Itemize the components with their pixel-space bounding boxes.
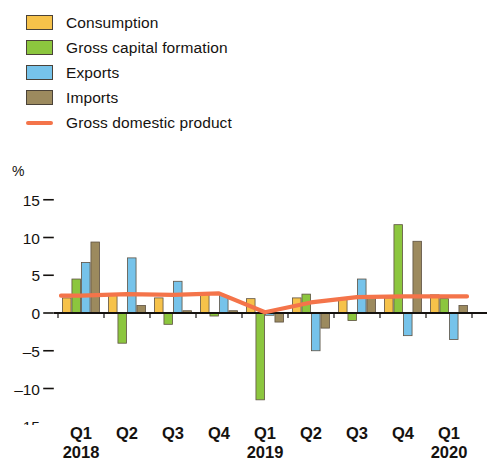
- bar: [256, 313, 265, 400]
- legend-item: Exports: [26, 60, 356, 85]
- chart-plot-area: 151050–5–10–15: [0, 185, 493, 425]
- x-axis-quarter-label: Q1: [426, 424, 472, 443]
- bar: [91, 242, 100, 313]
- x-axis-quarter-label: Q4: [380, 424, 426, 443]
- x-axis-group: Q12020: [426, 424, 472, 462]
- x-axis-group: Q12018: [58, 424, 104, 462]
- bar: [394, 225, 403, 313]
- bar-chart-svg: 151050–5–10–15: [0, 185, 493, 425]
- x-axis-quarter-label: Q4: [196, 424, 242, 443]
- bar: [173, 281, 182, 313]
- x-axis-quarter-label: Q2: [288, 424, 334, 443]
- bar: [154, 298, 163, 313]
- x-axis-group: Q4: [196, 424, 242, 443]
- bar: [108, 296, 117, 313]
- bar: [311, 313, 320, 351]
- x-axis-group: Q2: [288, 424, 334, 443]
- gdp-line: [61, 293, 467, 312]
- chart-legend: ConsumptionGross capital formationExport…: [26, 10, 356, 135]
- square-swatch-icon: [26, 65, 53, 80]
- bar: [275, 313, 284, 322]
- bar: [81, 262, 90, 313]
- y-axis-tick-label: 15: [23, 192, 40, 209]
- bar: [348, 313, 357, 321]
- y-axis-tick-label: 10: [23, 230, 41, 247]
- legend-item-label: Consumption: [66, 14, 158, 32]
- square-swatch-icon: [26, 90, 53, 105]
- x-axis-year-label: 2019: [242, 443, 288, 462]
- y-axis-tick-label: –10: [14, 381, 40, 398]
- x-axis-group: Q4: [380, 424, 426, 443]
- x-axis-quarter-label: Q1: [58, 424, 104, 443]
- legend-item: Consumption: [26, 10, 356, 35]
- y-axis-unit-label: %: [12, 163, 24, 179]
- bar: [449, 313, 458, 339]
- x-axis-group: Q12019: [242, 424, 288, 462]
- bar: [367, 298, 376, 313]
- bar: [413, 241, 422, 313]
- bar: [127, 258, 136, 313]
- x-axis-group: Q3: [334, 424, 380, 443]
- legend-item-label: Exports: [66, 64, 119, 82]
- legend-item: Gross capital formation: [26, 35, 356, 60]
- legend-item: Gross domestic product: [26, 110, 356, 135]
- bar: [459, 305, 468, 313]
- bar: [321, 313, 330, 328]
- bar: [62, 298, 71, 313]
- legend-item-label: Gross domestic product: [66, 114, 232, 132]
- bar: [137, 305, 146, 313]
- legend-item: Imports: [26, 85, 356, 110]
- bar: [118, 313, 127, 343]
- x-axis-labels: Q12018Q2Q3Q4Q12019Q2Q3Q4Q12020: [0, 424, 493, 468]
- y-axis-tick-label: 5: [31, 267, 40, 284]
- x-axis-year-label: 2020: [426, 443, 472, 462]
- x-axis-quarter-label: Q3: [150, 424, 196, 443]
- bar: [403, 313, 412, 336]
- x-axis-year-label: 2018: [58, 443, 104, 462]
- bar: [384, 298, 393, 313]
- x-axis-quarter-label: Q2: [104, 424, 150, 443]
- x-axis-quarter-label: Q3: [334, 424, 380, 443]
- bar: [440, 299, 449, 313]
- square-swatch-icon: [26, 15, 53, 30]
- x-axis-quarter-label: Q1: [242, 424, 288, 443]
- legend-item-label: Gross capital formation: [66, 39, 228, 57]
- y-axis-tick-label: –5: [23, 343, 40, 360]
- square-swatch-icon: [26, 40, 53, 55]
- bar: [164, 313, 173, 324]
- y-axis-tick-label: 0: [31, 305, 40, 322]
- x-axis-group: Q3: [150, 424, 196, 443]
- line-swatch-icon: [26, 115, 53, 130]
- legend-item-label: Imports: [66, 89, 118, 107]
- x-axis-group: Q2: [104, 424, 150, 443]
